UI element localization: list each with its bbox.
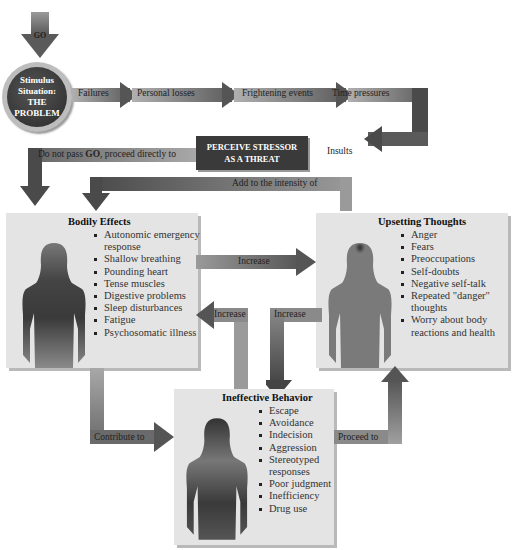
increase-label-3: Increase	[274, 309, 306, 319]
woman-figure-icon	[20, 243, 88, 372]
stressor-personal-losses: Personal losses	[137, 88, 195, 98]
stressor-frightening-events: Frightening events	[242, 88, 313, 98]
stimulus-line3: THE	[2, 97, 72, 108]
woman-figure-icon	[326, 243, 394, 372]
do-not-pass-label: Do not pass GO, proceed directly to	[38, 149, 176, 159]
stressor-failures: Failures	[78, 88, 109, 98]
go-arrow: GO	[20, 12, 60, 60]
upsetting-thoughts-list: Anger Fears Preoccupations Self-doubts N…	[398, 229, 514, 339]
bodily-effects-panel: Bodily Effects Autonomic emergency respo…	[6, 213, 198, 368]
perceive-stressor-box: PERCEIVE STRESSOR AS A THREAT	[196, 136, 308, 170]
upsetting-thoughts-panel: Upsetting Thoughts Anger Fears Preoccupa…	[316, 213, 508, 368]
list-item: Self-doubts	[411, 266, 514, 278]
add-to-intensity-label: Add to the intensity of	[232, 178, 318, 188]
stressor-time-pressures: Time pressures	[332, 88, 389, 98]
list-item: Anger	[411, 229, 514, 241]
list-item: Worry about body reactions and health	[411, 314, 514, 338]
stimulus-line2: Situation:	[2, 86, 72, 97]
woman-figure-icon	[184, 417, 250, 545]
list-item: Drug use	[269, 503, 349, 515]
proceed-to-arrow	[334, 366, 414, 456]
ineffective-behavior-panel: Ineffective Behavior Escape Avoidance In…	[174, 389, 334, 545]
increase-label-2: Increase	[214, 309, 246, 319]
contribute-to-arrow	[88, 368, 176, 462]
list-item: Stereotyped responses	[269, 454, 349, 478]
list-item: Inefficiency	[269, 490, 349, 502]
upsetting-thoughts-title: Upsetting Thoughts	[378, 216, 466, 227]
increase-label-1: Increase	[238, 256, 270, 266]
proceed-to-label: Proceed to	[338, 432, 378, 442]
list-item: Fears	[411, 241, 514, 253]
stimulus-line4: PROBLEM	[2, 108, 72, 119]
stressor-insults: Insults	[327, 146, 352, 156]
go-label: GO	[30, 31, 50, 40]
ineffective-behavior-title: Ineffective Behavior	[222, 392, 313, 403]
list-item: Poor judgment	[269, 478, 349, 490]
stimulus-line1: Stimulus	[2, 75, 72, 86]
list-item: Tense muscles	[104, 278, 214, 290]
stimulus-circle: Stimulus Situation: THE PROBLEM	[2, 62, 72, 132]
list-item: Preoccupations	[411, 253, 514, 265]
contribute-to-label: Contribute to	[94, 432, 144, 442]
perceive-line1: PERCEIVE STRESSOR	[196, 141, 308, 153]
bodily-effects-title: Bodily Effects	[68, 216, 131, 227]
list-item: Repeated "danger" thoughts	[411, 290, 514, 314]
list-item: Negative self-talk	[411, 278, 514, 290]
perceive-line2: AS A THREAT	[196, 153, 308, 165]
